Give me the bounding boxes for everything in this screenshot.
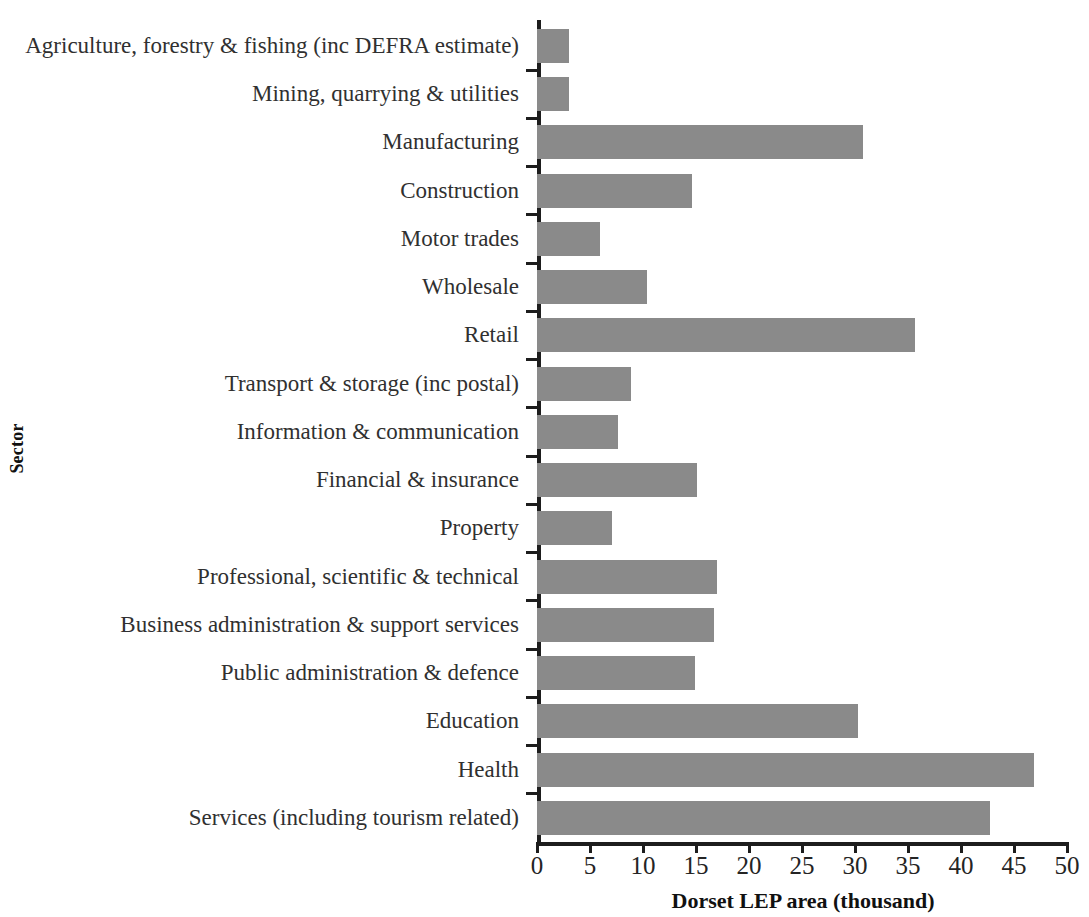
bar	[537, 270, 647, 304]
x-axis-tick-label: 5	[560, 852, 620, 880]
bar-row: Wholesale	[537, 263, 1067, 311]
x-axis-tick-label: 25	[772, 852, 832, 880]
x-axis-tick-label: 30	[825, 852, 885, 880]
y-axis-tick	[526, 406, 537, 409]
y-axis-tick-label: Professional, scientific & technical	[197, 553, 519, 601]
y-axis-tick	[526, 792, 537, 795]
x-axis-tick-label: 45	[984, 852, 1044, 880]
bar	[537, 753, 1034, 787]
bar-row: Services (including tourism related)	[537, 794, 1067, 842]
y-axis-tick	[526, 213, 537, 216]
y-axis-tick	[526, 696, 537, 699]
y-axis-tick	[526, 69, 537, 72]
bar-row: Education	[537, 697, 1067, 745]
y-axis-tick-label: Information & communication	[237, 408, 519, 456]
y-axis-tick-label: Business administration & support servic…	[120, 601, 519, 649]
bar	[537, 125, 863, 159]
bar	[537, 656, 695, 690]
bar	[537, 560, 717, 594]
bar-row: Motor trades	[537, 215, 1067, 263]
bar	[537, 463, 697, 497]
x-axis-tick-label: 50	[1037, 852, 1089, 880]
x-axis-tick-label: 15	[666, 852, 726, 880]
y-axis-tick	[526, 117, 537, 120]
bar	[537, 77, 569, 111]
bar-row: Information & communication	[537, 408, 1067, 456]
bar-row: Professional, scientific & technical	[537, 553, 1067, 601]
bar-row: Public administration & defence	[537, 649, 1067, 697]
y-axis-tick	[526, 744, 537, 747]
bar	[537, 608, 714, 642]
bar-row: Health	[537, 746, 1067, 794]
y-axis-tick-label: Public administration & defence	[221, 649, 519, 697]
y-axis-tick	[526, 262, 537, 265]
x-axis-tick-label: 40	[931, 852, 991, 880]
bar	[537, 29, 569, 63]
y-axis-tick-label: Wholesale	[422, 263, 519, 311]
x-axis-tick-label: 0	[507, 852, 567, 880]
y-axis-tick-label: Financial & insurance	[316, 456, 519, 504]
x-axis-tick-label: 10	[613, 852, 673, 880]
bar-row: Retail	[537, 311, 1067, 359]
bar	[537, 174, 692, 208]
bar-row: Transport & storage (inc postal)	[537, 360, 1067, 408]
bar-row: Manufacturing	[537, 118, 1067, 166]
bar	[537, 318, 915, 352]
y-axis-tick-label: Mining, quarrying & utilities	[252, 70, 519, 118]
y-axis-tick	[526, 310, 537, 313]
x-axis-tick-label: 35	[878, 852, 938, 880]
bar-row: Agriculture, forestry & fishing (inc DEF…	[537, 22, 1067, 70]
y-axis-tick-label: Retail	[464, 311, 519, 359]
bar-row: Mining, quarrying & utilities	[537, 70, 1067, 118]
y-axis-tick-label: Agriculture, forestry & fishing (inc DEF…	[25, 22, 519, 70]
x-axis-title: Dorset LEP area (thousand)	[537, 888, 1069, 914]
y-axis-tick	[526, 551, 537, 554]
y-axis-tick	[526, 599, 537, 602]
bar	[537, 367, 631, 401]
bar-row: Property	[537, 504, 1067, 552]
y-axis-tick-label: Transport & storage (inc postal)	[225, 360, 519, 408]
y-axis-tick-label: Education	[426, 697, 519, 745]
x-axis-tick-label: 20	[719, 852, 779, 880]
plot-area: Agriculture, forestry & fishing (inc DEF…	[537, 22, 1067, 842]
y-axis-tick-label: Construction	[400, 167, 519, 215]
y-axis-tick-label: Health	[458, 746, 519, 794]
bar	[537, 415, 618, 449]
bar-row: Financial & insurance	[537, 456, 1067, 504]
y-axis-tick	[526, 503, 537, 506]
y-axis-tick-label: Services (including tourism related)	[189, 794, 519, 842]
y-axis-tick	[526, 358, 537, 361]
bar	[537, 801, 990, 835]
bar-row: Business administration & support servic…	[537, 601, 1067, 649]
y-axis-tick	[526, 648, 537, 651]
bar-row: Construction	[537, 167, 1067, 215]
horizontal-bar-chart: Sector Agriculture, forestry & fishing (…	[0, 0, 1089, 917]
y-axis-title: Sector	[7, 404, 28, 494]
y-axis-tick	[526, 455, 537, 458]
bar	[537, 511, 612, 545]
y-axis-tick-label: Property	[440, 504, 519, 552]
y-axis-tick-label: Motor trades	[401, 215, 519, 263]
y-axis-tick	[526, 165, 537, 168]
bar	[537, 222, 600, 256]
y-axis-tick-label: Manufacturing	[382, 118, 519, 166]
bar	[537, 704, 858, 738]
